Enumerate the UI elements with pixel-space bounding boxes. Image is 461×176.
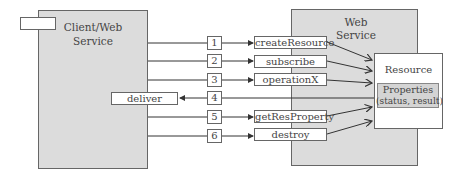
deliver-box: deliver (111, 92, 178, 105)
step-number-4: 4 (207, 91, 222, 105)
method-create-resource: createResource (254, 36, 327, 49)
resource-title: Resource (375, 63, 442, 77)
step-number-5: 5 (207, 110, 222, 124)
step-number-2: 2 (207, 54, 222, 68)
method-get-res-property: getResProperty (254, 110, 327, 123)
step-number-6: 6 (207, 129, 222, 143)
resource-box: Resource Properties (status, result) (374, 53, 443, 129)
properties-detail: (status, result) (376, 95, 440, 107)
step-number-1: 1 (207, 36, 222, 50)
properties-box: Properties (status, result) (377, 83, 439, 108)
method-subscribe: subscribe (254, 55, 327, 68)
method-operation-x: operationX (254, 73, 327, 86)
method-destroy: destroy (254, 128, 327, 141)
properties-title: Properties (378, 84, 438, 95)
step-number-3: 3 (207, 73, 222, 87)
